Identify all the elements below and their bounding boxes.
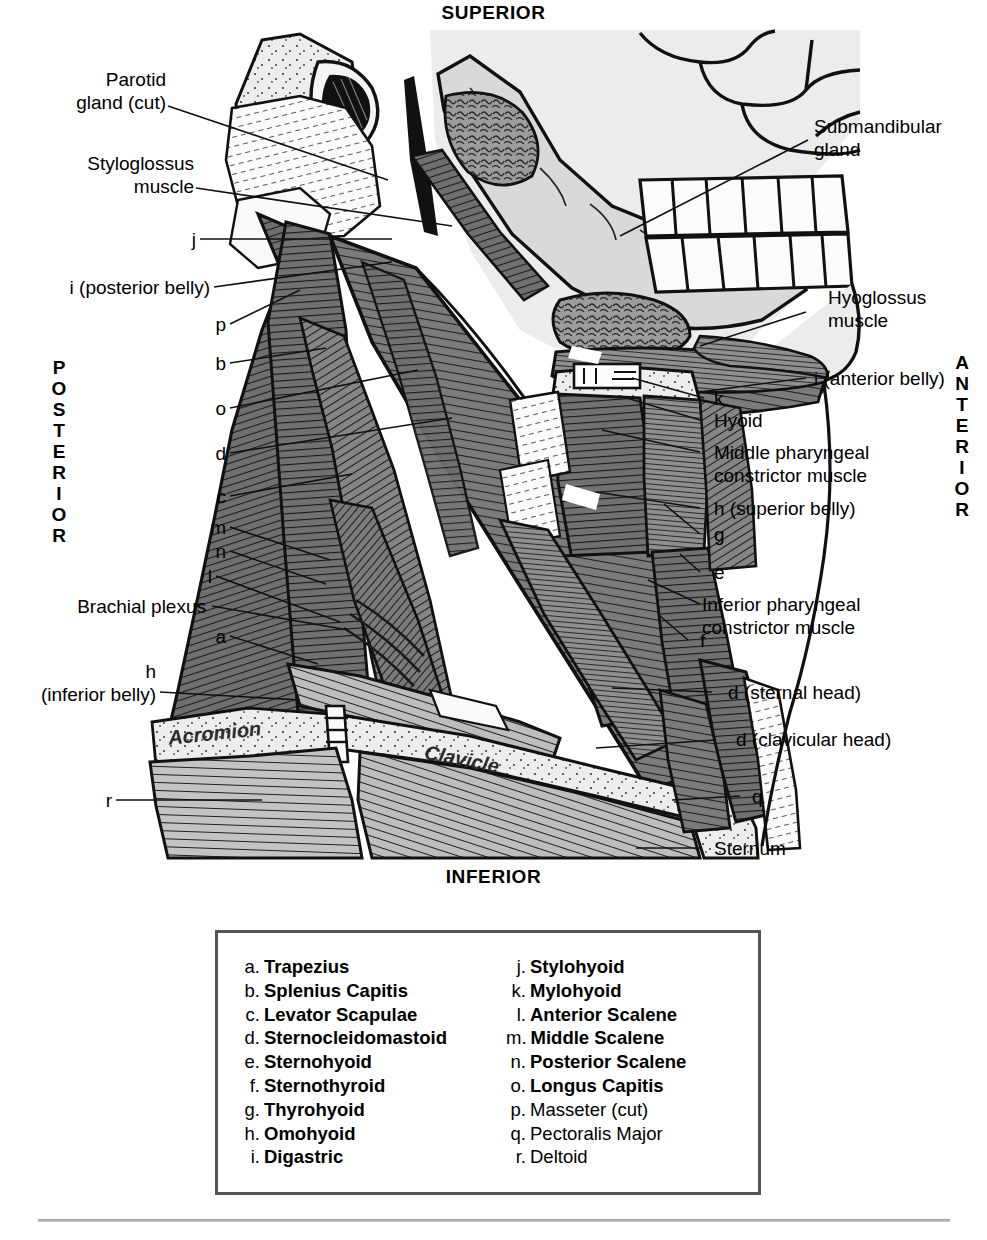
- callout-hyoid: Hyoid: [714, 409, 834, 432]
- legend-name: Sternohyoid: [264, 1051, 372, 1072]
- legend-item: c.Levator Scapulae: [240, 1003, 492, 1027]
- legend-item: d.Sternocleidomastoid: [240, 1026, 492, 1050]
- callout-middle-pharyngeal-constrictor: Middle pharyngeal constrictor muscle: [714, 441, 954, 487]
- callout-c: c: [0, 485, 226, 508]
- legend-item: e.Sternohyoid: [240, 1050, 492, 1074]
- callout-i-anterior-belly: i (anterior belly): [814, 367, 987, 390]
- legend-name: Levator Scapulae: [264, 1004, 417, 1025]
- legend-key: i.: [240, 1145, 260, 1169]
- legend-key: o.: [506, 1074, 526, 1098]
- legend-item: a.Trapezius: [240, 955, 492, 979]
- legend-item: r.Deltoid: [506, 1145, 758, 1169]
- legend-item: h.Omohyoid: [240, 1122, 492, 1146]
- legend-key: m.: [506, 1026, 527, 1050]
- legend-name: Masseter (cut): [530, 1099, 648, 1120]
- callout-f: f: [700, 629, 780, 652]
- middle-pharyngeal-constrictor: [556, 394, 652, 560]
- legend-key: j.: [506, 955, 526, 979]
- legend-item: n.Posterior Scalene: [506, 1050, 758, 1074]
- callout-submandibular-gland: Submandibular gland: [814, 115, 987, 161]
- callout-j: j: [0, 228, 196, 251]
- callout-e: e: [714, 561, 794, 584]
- callout-q: q: [752, 785, 832, 808]
- legend-item: i.Digastric: [240, 1145, 492, 1169]
- callout-styloglossus-muscle: Styloglossus muscle: [0, 152, 194, 198]
- legend-name: Omohyoid: [264, 1123, 355, 1144]
- callout-k: k: [714, 387, 794, 410]
- legend-name: Sternocleidomastoid: [264, 1027, 447, 1048]
- callout-a: a: [0, 625, 226, 648]
- legend-item: b.Splenius Capitis: [240, 979, 492, 1003]
- legend-key: k.: [506, 979, 526, 1003]
- callout-hyoglossus-muscle: Hyoglossus muscle: [828, 286, 986, 332]
- callout-n: n: [0, 540, 226, 563]
- legend-name: Splenius Capitis: [264, 980, 408, 1001]
- legend-item: l.Anterior Scalene: [506, 1003, 758, 1027]
- legend-item: g.Thyrohyoid: [240, 1098, 492, 1122]
- legend-item: p.Masseter (cut): [506, 1098, 758, 1122]
- legend-name: Thyrohyoid: [264, 1099, 365, 1120]
- legend-key: p.: [506, 1098, 526, 1122]
- legend-name: Sternothyroid: [264, 1075, 385, 1096]
- legend-name: Longus Capitis: [530, 1075, 664, 1096]
- callout-l: l: [0, 565, 212, 588]
- legend-name: Digastric: [264, 1146, 343, 1167]
- callout-r: r: [0, 789, 112, 812]
- legend-name: Posterior Scalene: [530, 1051, 686, 1072]
- callout-i-posterior-belly: i (posterior belly): [0, 276, 210, 299]
- legend-key: d.: [240, 1026, 260, 1050]
- legend-key: b.: [240, 979, 260, 1003]
- callout-d: d: [0, 442, 226, 465]
- callout-p: p: [0, 313, 226, 336]
- callout-h-superior-belly: h (superior belly): [714, 497, 944, 520]
- callout-brachial-plexus: Brachial plexus: [0, 595, 206, 618]
- legend-name: Stylohyoid: [530, 956, 625, 977]
- callout-sternum: Sternum: [714, 837, 874, 860]
- legend-name: Mylohyoid: [530, 980, 621, 1001]
- legend-item: o.Longus Capitis: [506, 1074, 758, 1098]
- legend-key: r.: [506, 1145, 526, 1169]
- legend-column-left: a.Trapezius b.Splenius Capitis c.Levator…: [218, 955, 492, 1192]
- footer-divider-rule: [38, 1219, 950, 1222]
- callout-m: m: [0, 516, 226, 539]
- legend-name: Middle Scalene: [531, 1027, 665, 1048]
- legend-name: Pectoralis Major: [530, 1123, 663, 1144]
- legend-item: k.Mylohyoid: [506, 979, 758, 1003]
- callout-g: g: [714, 523, 794, 546]
- callout-d-sternal-head: d (sternal head): [728, 681, 958, 704]
- callout-b: b: [0, 352, 226, 375]
- legend-key: l.: [506, 1003, 526, 1027]
- legend-key: h.: [240, 1122, 260, 1146]
- legend-key: e.: [240, 1050, 260, 1074]
- legend-name: Deltoid: [530, 1146, 588, 1167]
- anatomy-figure-page: SUPERIOR INFERIOR P O S T E R I O R A N …: [0, 0, 987, 1240]
- legend-item: f.Sternothyroid: [240, 1074, 492, 1098]
- muscle-legend-box: a.Trapezius b.Splenius Capitis c.Levator…: [215, 930, 761, 1195]
- legend-item: q.Pectoralis Major: [506, 1122, 758, 1146]
- legend-key: g.: [240, 1098, 260, 1122]
- callout-parotid-gland: Parotid gland (cut): [0, 68, 166, 114]
- callout-d-clavicular-head: d (clavicular head): [736, 728, 986, 751]
- legend-item: j.Stylohyoid: [506, 955, 758, 979]
- callout-o: o: [0, 397, 226, 420]
- legend-key: a.: [240, 955, 260, 979]
- legend-column-right: j.Stylohyoid k.Mylohyoid l.Anterior Scal…: [492, 955, 758, 1192]
- callout-h-inferior-belly: h (inferior belly): [0, 660, 156, 706]
- legend-item: m.Middle Scalene: [506, 1026, 758, 1050]
- legend-name: Anterior Scalene: [530, 1004, 677, 1025]
- legend-name: Trapezius: [264, 956, 349, 977]
- legend-key: q.: [506, 1122, 526, 1146]
- legend-key: c.: [240, 1003, 260, 1027]
- legend-key: f.: [240, 1074, 260, 1098]
- deltoid-r: [150, 748, 362, 858]
- legend-key: n.: [506, 1050, 526, 1074]
